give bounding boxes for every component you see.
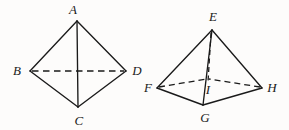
edge-f-g <box>157 88 203 105</box>
edge-h-back-dashed <box>209 79 260 87</box>
vertex-label-c: C <box>75 114 84 127</box>
edge-a-b <box>30 21 77 71</box>
edge-g-h <box>203 88 262 105</box>
vertex-label-e: E <box>209 10 217 23</box>
edge-f-back-dashed <box>159 79 207 87</box>
vertex-label-b: B <box>13 64 21 77</box>
vertex-label-g: G <box>200 111 210 124</box>
vertex-label-i: I <box>206 83 211 96</box>
edge-b-c <box>30 71 78 107</box>
edge-a-d <box>77 21 126 71</box>
figure-svg <box>0 0 289 130</box>
vertex-label-f: F <box>144 81 152 94</box>
vertex-label-d: D <box>132 64 142 77</box>
edge-a-c <box>77 21 78 107</box>
edge-d-c <box>78 71 126 107</box>
edge-e-h <box>212 30 262 88</box>
vertex-label-a: A <box>69 3 77 16</box>
geometry-figure-canvas: A B D C E F G H I <box>0 0 289 130</box>
tetrahedron-abcd-group <box>30 21 126 107</box>
vertex-label-h: H <box>267 81 277 94</box>
